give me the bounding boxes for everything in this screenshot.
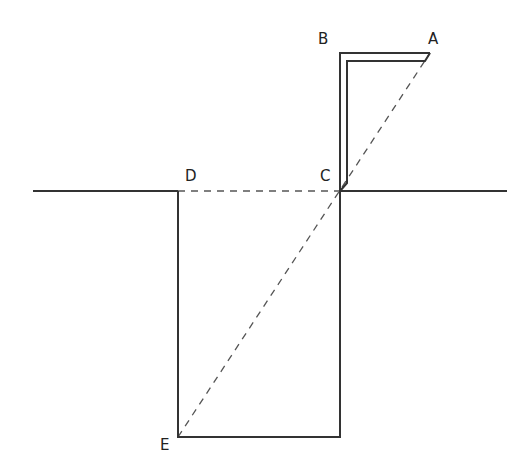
label-c: C — [320, 167, 330, 185]
label-d: D — [185, 167, 197, 185]
label-b: B — [318, 30, 328, 48]
label-a: A — [428, 30, 439, 48]
dashed-diagonal-ea — [178, 53, 430, 437]
label-e: E — [160, 436, 169, 454]
diagram-canvas: A B C D E — [0, 0, 527, 474]
diagram-svg: A B C D E — [0, 0, 527, 474]
